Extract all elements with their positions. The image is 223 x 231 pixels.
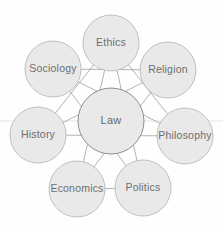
diagram-canvas: EthicsReligionPhilosophyPoliticsEconomic…	[0, 0, 223, 231]
node-ethics[interactable]: Ethics	[83, 15, 139, 71]
node-sociology[interactable]: Sociology	[25, 41, 81, 97]
center-label-law: Law	[101, 114, 122, 126]
node-philosophy[interactable]: Philosophy	[157, 108, 213, 164]
node-label-sociology: Sociology	[29, 62, 77, 74]
node-religion[interactable]: Religion	[140, 42, 196, 98]
node-label-philosophy: Philosophy	[158, 129, 212, 141]
node-label-religion: Religion	[148, 63, 188, 75]
discipline-network-diagram: EthicsReligionPhilosophyPoliticsEconomic…	[0, 0, 223, 231]
center-node-group: Law	[78, 88, 144, 154]
node-economics[interactable]: Economics	[49, 161, 105, 217]
node-label-ethics: Ethics	[96, 36, 126, 48]
node-history[interactable]: History	[10, 107, 66, 163]
node-label-economics: Economics	[50, 182, 103, 194]
node-center-law[interactable]: Law	[78, 88, 144, 154]
node-politics[interactable]: Politics	[115, 160, 171, 216]
node-label-history: History	[21, 128, 56, 140]
node-label-politics: Politics	[126, 181, 161, 193]
